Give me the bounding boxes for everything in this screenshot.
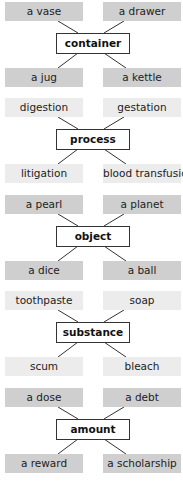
example-bottom-right: a kettle — [103, 68, 181, 87]
group-object: a pearl a planet object a dice a ball — [0, 193, 183, 285]
example-bottom-left: scum — [5, 357, 83, 376]
category-label: amount — [56, 419, 130, 440]
example-bottom-left: a dice — [5, 261, 83, 280]
example-bottom-right: blood transfusion — [103, 164, 181, 183]
example-bottom-left: a jug — [5, 68, 83, 87]
group-container: a vase a drawer container a jug a kettle — [0, 0, 183, 92]
category-label: container — [56, 33, 130, 54]
example-bottom-right: a ball — [103, 261, 181, 280]
example-top-left: a vase — [5, 2, 83, 21]
example-top-left: toothpaste — [5, 291, 83, 310]
example-top-left: a pearl — [5, 195, 83, 214]
example-bottom-right: bleach — [103, 357, 181, 376]
example-bottom-left: a reward — [5, 454, 83, 473]
example-top-right: a debt — [103, 388, 181, 407]
example-top-right: soap — [103, 291, 181, 310]
category-label: substance — [56, 322, 130, 343]
example-bottom-left: litigation — [5, 164, 83, 183]
example-bottom-right: a scholarship — [103, 454, 181, 473]
example-top-right: gestation — [103, 98, 181, 117]
example-top-right: a planet — [103, 195, 181, 214]
group-process: digestion gestation process litigation b… — [0, 96, 183, 188]
group-amount: a dose a debt amount a reward a scholars… — [0, 386, 183, 478]
example-top-right: a drawer — [103, 2, 181, 21]
example-top-left: digestion — [5, 98, 83, 117]
group-substance: toothpaste soap substance scum bleach — [0, 289, 183, 381]
category-label: process — [56, 129, 130, 150]
example-top-left: a dose — [5, 388, 83, 407]
category-label: object — [56, 226, 130, 247]
